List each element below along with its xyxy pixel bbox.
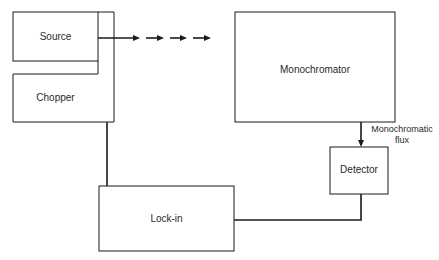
beam-arrowhead-2: [157, 35, 164, 41]
chopper-block-outline: [13, 12, 114, 122]
flux-annotation-line1: Monochromatic: [369, 124, 435, 134]
detector-to-lockin-wire: [234, 194, 361, 220]
detector-label: Detector: [330, 164, 388, 175]
lockin-label: Lock-in: [99, 213, 234, 224]
source-label: Source: [13, 31, 98, 42]
flux-arrowhead: [358, 140, 364, 147]
flux-annotation-line2: flux: [369, 135, 435, 145]
beam-arrowhead-3: [180, 35, 187, 41]
light-beam: [98, 35, 211, 41]
monochromator-label: Monochromator: [235, 64, 395, 75]
chopper-label: Chopper: [13, 92, 98, 103]
beam-arrowhead-1: [133, 35, 140, 41]
beam-arrowhead-4: [204, 35, 211, 41]
